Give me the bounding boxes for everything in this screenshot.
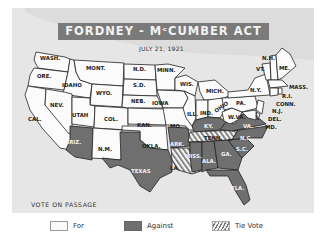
legend-item-tie: Tie Vote [212, 220, 263, 232]
label-sd: S.D. [133, 82, 145, 88]
label-wyo: WYO. [96, 90, 112, 96]
label-utah: UTAH [72, 112, 89, 118]
label-ark: ARK. [170, 141, 185, 147]
label-nc: N.C. [240, 135, 253, 141]
label-nh: N.H. [262, 55, 275, 61]
label-ind: IND. [200, 110, 213, 116]
label-la: LA. [170, 165, 180, 171]
label-me: ME. [279, 65, 290, 71]
label-ri: R.I. [282, 93, 292, 99]
label-nd: N.D. [133, 66, 146, 72]
legend-item-for: For [50, 220, 84, 232]
label-del: DEL. [268, 116, 282, 122]
map-date: JULY 21, 1921 [0, 45, 323, 52]
label-okla: OKLA. [142, 143, 161, 149]
label-iowa: IOWA [152, 100, 169, 106]
label-vt: VT. [256, 66, 265, 72]
label-wis: WIS. [180, 81, 194, 87]
map-title: FORDNEY - MᶜCUMBER ACT [58, 23, 269, 40]
label-wash: WASH. [40, 55, 60, 61]
against-swatch [124, 221, 142, 231]
label-ny: N.Y. [250, 87, 262, 93]
label-ill: ILL. [187, 111, 198, 117]
label-idaho: IDAHO [62, 82, 82, 88]
label-texas: TEXAS [131, 168, 151, 174]
label-nm: N.M. [98, 146, 112, 152]
state-conn[interactable] [270, 88, 278, 96]
tie-vote-swatch [212, 221, 230, 231]
label-ga: GA. [221, 151, 232, 157]
label-mich: MICH. [206, 88, 224, 94]
label-cal: CAL. [28, 116, 42, 122]
label-neb: NEB. [131, 98, 145, 104]
label-tenn: TENN. [204, 135, 222, 141]
label-ore: ORE. [37, 73, 51, 79]
label-nev: NEV. [50, 102, 64, 108]
state-nm[interactable] [92, 128, 122, 160]
label-mo: MO. [170, 123, 182, 129]
label-mass: MASS. [289, 84, 308, 90]
label-ky: KY. [204, 123, 213, 129]
label-minn: MINN. [157, 67, 175, 73]
legend-title: VOTE ON PASSAGE [31, 201, 97, 208]
label-ala: ALA. [202, 158, 216, 164]
label-col: COL. [104, 116, 118, 122]
label-pa: PA. [236, 100, 246, 106]
label-conn: CONN. [276, 101, 296, 107]
legend-item-against: Against [124, 220, 173, 232]
legend-label-against: Against [147, 222, 173, 230]
label-md: MD. [265, 124, 277, 130]
for-swatch [50, 221, 68, 231]
label-fla: FLA. [231, 185, 244, 191]
label-miss: MISS. [185, 153, 202, 159]
label-sc: S.C. [236, 146, 248, 152]
label-ariz: ARIZ. [65, 139, 81, 145]
label-va: VA. [243, 123, 253, 129]
legend-label-for: For [73, 222, 84, 230]
label-kan: KAN. [137, 122, 152, 128]
label-nj: N.J. [272, 108, 283, 115]
label-wva: W.VA. [228, 114, 246, 120]
label-mont: MONT. [86, 65, 105, 71]
legend-label-tie: Tie Vote [235, 222, 263, 230]
